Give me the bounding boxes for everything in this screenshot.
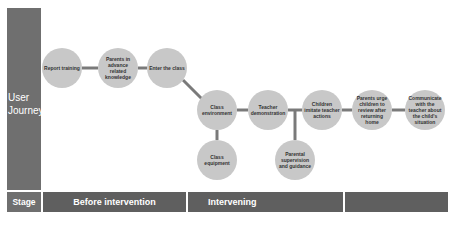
journey-node-teacher-demonstration: Teacher demonstration bbox=[248, 90, 288, 130]
journey-node-parents-urge: Parents urge children to review after re… bbox=[352, 90, 392, 130]
journey-node-class-environment: Class environment bbox=[197, 90, 237, 130]
journey-node-class-equipment: Class equipment bbox=[197, 140, 237, 180]
journey-node-children-imitate: Children imitate teacher actions bbox=[302, 90, 342, 130]
journey-node-report-training: Report training bbox=[42, 48, 82, 88]
journey-node-parents-in-advance: Parents in advance related knowledge bbox=[98, 48, 138, 88]
journey-node-enter-class: Enter the class bbox=[147, 48, 187, 88]
journey-node-parental-supervision: Parental supervision and guidance bbox=[275, 140, 315, 180]
journey-node-communicate-teacher: Communicate with the teacher about the c… bbox=[405, 90, 445, 130]
